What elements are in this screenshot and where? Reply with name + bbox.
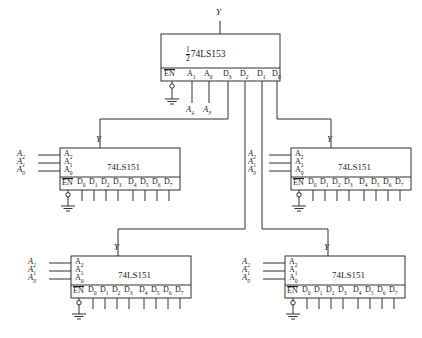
ext-input-ll-a0: A0 [28, 273, 36, 284]
pin-label-lr-d5: D5 [365, 286, 374, 296]
output-label-top-y: Y [216, 8, 221, 17]
en-bubble-ll [77, 301, 81, 305]
pin-label-ur-d0: D0 [308, 178, 317, 188]
pin-label-ul-d2: D2 [101, 178, 110, 188]
pin-label-ll-d5: D5 [151, 286, 160, 296]
pin-label-153-d0: D0 [272, 70, 281, 80]
ext-input-a4: A4 [186, 105, 194, 116]
ext-input-ur-a0: A0 [248, 165, 256, 176]
pin-label-ur-d7: D7 [395, 178, 404, 188]
pin-label-153-en: EN [164, 69, 175, 78]
chip-ur-name: 74LS151 [338, 163, 371, 172]
pin-label-ul-a0: A0 [64, 166, 73, 176]
pin-label-ul-d4: D4 [128, 178, 137, 188]
en-bubble-ul [66, 193, 70, 197]
chip-ul-name: 74LS151 [107, 163, 140, 172]
pin-label-ur-en: EN [293, 178, 304, 187]
pin-label-ul-d0: D0 [77, 178, 86, 188]
chip-lr-name: 74LS151 [332, 271, 365, 280]
en-bubble-ur [297, 193, 301, 197]
pin-label-ur-d5: D5 [371, 178, 380, 188]
chip-153-name-group: 1 2 74LS153 [186, 46, 226, 63]
ext-input-a3: A3 [203, 105, 211, 116]
pin-label-lr-d6: D6 [377, 286, 386, 296]
pin-label-153-a0: A0 [204, 70, 213, 80]
pin-label-ll-d0: D0 [88, 286, 97, 296]
pin-label-ul-d3: D3 [113, 178, 122, 188]
output-label-ur-y: Y [327, 135, 332, 144]
ext-input-lr-a0: A0 [242, 273, 250, 284]
pin-label-ur-d4: D4 [359, 178, 368, 188]
pin-label-ur-a0: A0 [295, 166, 304, 176]
pin-label-ur-d3: D3 [344, 178, 353, 188]
pin-label-lr-d4: D4 [353, 286, 362, 296]
pin-label-ll-d7: D7 [175, 286, 184, 296]
pin-label-lr-d7: D7 [389, 286, 398, 296]
pin-label-ul-d6: D6 [152, 178, 161, 188]
pin-label-lr-d0: D0 [302, 286, 311, 296]
chip-ll-name: 74LS151 [118, 271, 151, 280]
en-bubble-lr [291, 301, 295, 305]
ext-input-ul-a0: A0 [17, 165, 25, 176]
pin-label-ul-en: EN [62, 178, 73, 187]
pin-label-lr-d2: D2 [326, 286, 335, 296]
en-bubble-153 [170, 84, 174, 88]
pin-label-ll-en: EN [73, 286, 84, 295]
pin-label-lr-d1: D1 [314, 286, 323, 296]
output-label-lr-y: Y [324, 243, 329, 252]
pin-label-ul-d1: D1 [89, 178, 98, 188]
output-label-ll-y: Y [114, 243, 119, 252]
pin-label-ll-d1: D1 [100, 286, 109, 296]
chip-153-name: 74LS153 [191, 49, 226, 59]
pin-label-ll-d2: D2 [112, 286, 121, 296]
output-label-ul-y: Y [96, 135, 101, 144]
pin-label-lr-en: EN [287, 286, 298, 295]
pin-label-153-a1: A1 [187, 70, 196, 80]
pin-label-ll-a0: A0 [75, 274, 84, 284]
pin-label-153-d2: D2 [240, 70, 249, 80]
pin-label-lr-d3: D3 [338, 286, 347, 296]
pin-label-ur-d2: D2 [332, 178, 341, 188]
pin-label-ur-d6: D6 [383, 178, 392, 188]
pin-label-ul-d7: D7 [164, 178, 173, 188]
pin-label-ll-d4: D4 [139, 286, 148, 296]
pin-label-ll-d6: D6 [163, 286, 172, 296]
pin-label-ll-d3: D3 [124, 286, 133, 296]
pin-label-ul-d5: D5 [140, 178, 149, 188]
pin-label-lr-a0: A0 [289, 274, 298, 284]
circuit-diagram-canvas: Y 1 2 74LS153 EN A1 A0 D3 D2 D1 D0 A4 A3… [0, 0, 422, 338]
pin-label-153-d3: D3 [223, 70, 232, 80]
pin-label-ur-d1: D1 [320, 178, 329, 188]
pin-label-153-d1: D1 [257, 70, 266, 80]
half-fraction: 1 2 [186, 46, 190, 63]
